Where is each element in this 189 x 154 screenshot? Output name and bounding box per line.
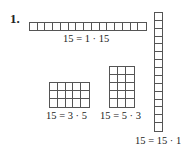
grid-cell: [110, 83, 118, 91]
grid-cell: [126, 67, 134, 75]
grid-cell: [58, 99, 66, 107]
grid-cell: [155, 115, 162, 123]
grid-cell: [110, 99, 118, 107]
grid-cell: [81, 83, 89, 91]
grid-cell: [138, 23, 146, 30]
grid-cell: [118, 83, 126, 91]
grid-cell: [110, 67, 118, 75]
grid-cell: [155, 21, 162, 29]
grid-cell: [126, 83, 134, 91]
grid-cell: [155, 60, 162, 68]
array-15-by-1: [154, 12, 163, 132]
grid-cell: [58, 91, 66, 99]
grid-cell: [126, 75, 134, 83]
grid-cell: [155, 123, 162, 131]
array-3-by-5: [49, 82, 90, 108]
grid-cell: [73, 99, 81, 107]
grid-cell: [66, 99, 74, 107]
grid-cell: [81, 99, 89, 107]
grid-cell: [50, 99, 58, 107]
grid-cell: [118, 67, 126, 75]
grid-cell: [66, 91, 74, 99]
grid-cell: [81, 91, 89, 99]
grid-cell: [58, 83, 66, 91]
grid-cell: [155, 100, 162, 108]
grid-cell: [155, 52, 162, 60]
grid-cell: [50, 83, 58, 91]
grid-cell: [84, 23, 92, 30]
grid-cell: [155, 76, 162, 84]
grid-cell: [123, 23, 131, 30]
problem-number: 1.: [10, 11, 20, 27]
label-15-by-1: 15 = 15 · 1: [135, 135, 181, 146]
grid-cell: [69, 23, 77, 30]
grid-cell: [115, 23, 123, 30]
grid-cell: [131, 23, 139, 30]
grid-cell: [126, 99, 134, 107]
grid-cell: [92, 23, 100, 30]
grid-cell: [155, 92, 162, 100]
grid-cell: [66, 83, 74, 91]
grid-cell: [155, 13, 162, 21]
label-3-by-5: 15 = 3 · 5: [46, 110, 87, 121]
grid-cell: [155, 84, 162, 92]
grid-cell: [155, 44, 162, 52]
grid-cell: [45, 23, 53, 30]
grid-cell: [118, 99, 126, 107]
grid-cell: [76, 23, 84, 30]
grid-cell: [61, 23, 69, 30]
grid-cell: [155, 68, 162, 76]
grid-cell: [155, 107, 162, 115]
grid-cell: [100, 23, 108, 30]
grid-cell: [155, 37, 162, 45]
grid-cell: [73, 83, 81, 91]
grid-cell: [30, 23, 38, 30]
grid-cell: [110, 91, 118, 99]
grid-cell: [73, 91, 81, 99]
grid-cell: [118, 91, 126, 99]
label-5-by-3: 15 = 5 · 3: [100, 110, 141, 121]
array-1-by-15: [29, 22, 147, 31]
grid-cell: [50, 91, 58, 99]
grid-cell: [38, 23, 46, 30]
grid-cell: [126, 91, 134, 99]
array-5-by-3: [109, 66, 135, 108]
label-1-by-15: 15 = 1 · 15: [63, 33, 109, 44]
grid-cell: [110, 75, 118, 83]
grid-cell: [155, 29, 162, 37]
grid-cell: [107, 23, 115, 30]
grid-cell: [53, 23, 61, 30]
grid-cell: [118, 75, 126, 83]
